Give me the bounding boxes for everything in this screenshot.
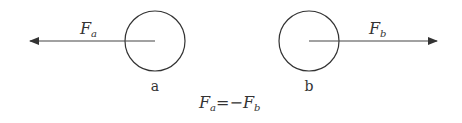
object-label-b: b — [305, 78, 314, 94]
force-diagram: Fa a Fb b Fa=−Fb — [0, 0, 462, 123]
force-label-a: Fa — [79, 19, 97, 39]
object-b: Fb b — [279, 11, 437, 94]
force-label-b: Fb — [368, 19, 387, 39]
equation: Fa=−Fb — [198, 93, 260, 113]
object-label-a: a — [151, 78, 159, 94]
object-a: Fa a — [30, 11, 185, 94]
